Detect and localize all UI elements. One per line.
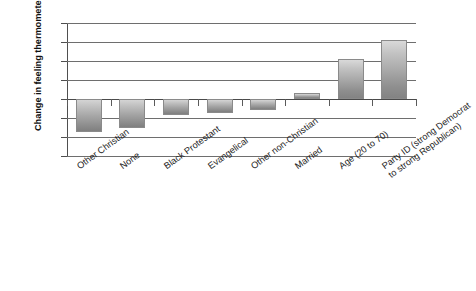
bar[interactable] xyxy=(207,99,233,113)
bar[interactable] xyxy=(338,59,364,99)
x-tick-mark xyxy=(329,99,330,106)
x-tick-mark xyxy=(198,99,199,106)
x-tick-mark xyxy=(285,99,286,106)
bar[interactable] xyxy=(119,99,145,128)
x-tick-mark xyxy=(111,99,112,106)
x-tick-mark xyxy=(242,99,243,106)
x-tick-mark xyxy=(154,99,155,106)
x-tick-mark xyxy=(67,99,68,106)
bar[interactable] xyxy=(294,93,320,99)
y-axis-title: Change in feeling thermometer xyxy=(33,0,43,154)
x-tick-mark xyxy=(416,99,417,106)
bar[interactable] xyxy=(163,99,189,115)
x-tick-mark xyxy=(372,99,373,106)
bar[interactable] xyxy=(250,99,276,110)
bar[interactable] xyxy=(76,99,102,132)
bar[interactable] xyxy=(381,40,407,99)
